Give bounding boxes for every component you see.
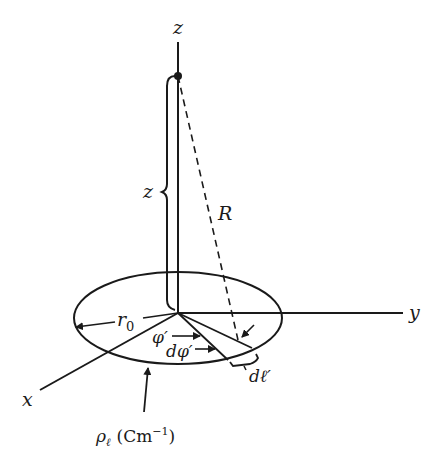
height-label: z	[142, 180, 154, 202]
radius-label: r0	[117, 308, 134, 334]
distance-label: R	[217, 202, 232, 224]
x-axis-label: x	[22, 388, 33, 410]
length-element-tick	[244, 366, 246, 370]
charge-density-label: ρℓ(Cm−1)	[95, 425, 175, 449]
radius-arrow	[76, 322, 115, 327]
ring-charge-diagram: z y x z R r0 φ′ dφ′ dℓ′ ρℓ(Cm−1)	[0, 0, 445, 474]
height-brace	[162, 76, 175, 310]
angle-increment-label: dφ′	[166, 341, 193, 361]
y-axis-label: y	[408, 301, 420, 323]
z-axis-label: z	[172, 16, 184, 38]
charge-density-arrow	[144, 368, 148, 412]
element-arrow	[242, 325, 254, 337]
x-axis	[40, 313, 178, 390]
length-element-label: dℓ′	[249, 366, 271, 386]
